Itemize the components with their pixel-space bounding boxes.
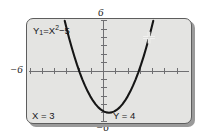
axis-label-top: 6: [98, 7, 103, 18]
axis-label-left: −6: [10, 64, 23, 75]
equation-function-index: 1: [39, 29, 43, 36]
trace-y-readout: Y = 4: [113, 111, 135, 121]
trace-x-readout: X = 3: [32, 111, 54, 121]
equation-rest: −5: [59, 25, 70, 36]
calculator-screen: Y1=X2−5 X = 3 Y = 4: [26, 18, 192, 124]
trace-cursor-icon: [143, 32, 155, 44]
function-curve: [65, 21, 154, 113]
calculator-graph-figure: 6 −6 −6 6: [0, 0, 203, 137]
equation-label: Y1=X2−5: [33, 26, 70, 36]
